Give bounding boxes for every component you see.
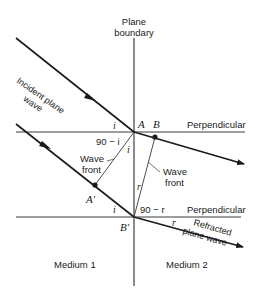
point-a-label: A: [137, 118, 145, 130]
medium-2-label: Medium 2: [166, 259, 208, 270]
angle-r-bottom-label: r: [172, 217, 176, 228]
point-a-prime-dot: [92, 182, 97, 187]
angle-i-bottom-label: i: [113, 204, 116, 215]
wave-front-label: front: [82, 164, 101, 175]
angle-r-inner-label: r: [137, 181, 141, 192]
refraction-diagram: Plane boundary Incident plane wave i A B…: [0, 0, 259, 302]
medium-1-label: Medium 1: [54, 259, 96, 270]
angle-90-minus-r-label: 90 − r: [140, 204, 165, 215]
refracted-ray-1: [134, 132, 244, 164]
point-b-prime-label: B′: [120, 221, 130, 233]
diagram-svg: Plane boundary Incident plane wave i A B…: [0, 0, 259, 302]
point-b-label: B: [153, 118, 160, 130]
refracted-label-group: Refracted plane wave: [182, 215, 233, 248]
angle-90-minus-i-label: 90 − i: [96, 136, 120, 147]
plane-boundary-label: boundary: [114, 27, 154, 38]
point-b-dot: [152, 134, 157, 139]
perpendicular-label: Perpendicular: [187, 119, 246, 130]
plane-boundary-label: Plane: [122, 16, 146, 27]
perpendicular-label: Perpendicular: [187, 204, 246, 215]
wave-front-label: Wave: [80, 153, 104, 164]
incident-label-group: Incident plane wave: [9, 75, 67, 124]
angle-i-inner-label: i: [127, 144, 130, 155]
wave-front-label: Wave: [163, 166, 187, 177]
angle-i-label: i: [113, 120, 116, 131]
wave-front-leader-right: [148, 162, 160, 172]
wave-front-label: front: [165, 177, 184, 188]
point-a-prime-label: A′: [85, 193, 96, 205]
